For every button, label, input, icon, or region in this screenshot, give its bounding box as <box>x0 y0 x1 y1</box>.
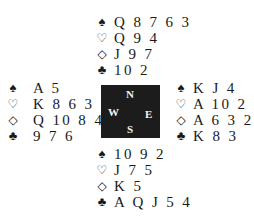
north-hearts-cards: Q 9 4 <box>114 30 159 46</box>
diamond-icon: ◇ <box>95 46 109 62</box>
spade-icon: ♠ <box>174 80 188 96</box>
north-clubs-cards: 10 2 <box>114 62 150 78</box>
spade-icon: ♠ <box>6 80 20 96</box>
club-icon: ♣ <box>6 128 20 144</box>
heart-icon: ♡ <box>6 96 20 112</box>
club-icon: ♣ <box>174 128 188 144</box>
diamond-icon: ◇ <box>95 178 109 194</box>
heart-icon: ♡ <box>95 30 109 46</box>
heart-icon: ♡ <box>95 162 109 178</box>
heart-icon: ♡ <box>174 96 188 112</box>
compass-south-label: S <box>127 124 133 135</box>
west-hearts-cards: K 8 6 3 <box>33 96 94 112</box>
compass-east-label: E <box>145 109 152 120</box>
spade-icon: ♠ <box>95 14 109 30</box>
south-diamonds-cards: K 5 <box>114 178 143 194</box>
diamond-icon: ◇ <box>174 112 188 128</box>
west-diamonds-cards: Q 10 8 4 <box>33 112 104 128</box>
east-diamonds-cards: A 6 3 2 <box>193 112 254 128</box>
east-spades-cards: K J 4 <box>193 80 237 96</box>
diamond-icon: ◇ <box>6 112 20 128</box>
compass-west-label: W <box>108 107 119 118</box>
south-spades-cards: 10 9 2 <box>114 146 166 162</box>
west-clubs-cards: 9 7 6 <box>33 128 75 144</box>
compass-north-label: N <box>126 89 134 100</box>
west-spades-cards: A 5 <box>33 80 61 96</box>
club-icon: ♣ <box>95 194 109 210</box>
south-hearts-cards: J 7 5 <box>114 162 154 178</box>
spade-icon: ♠ <box>95 146 109 162</box>
east-clubs-cards: K 8 3 <box>193 128 238 144</box>
north-spades-cards: Q 8 7 6 3 <box>114 14 191 30</box>
club-icon: ♣ <box>95 62 109 78</box>
east-hearts-cards: A 10 2 <box>193 96 247 112</box>
south-clubs-cards: A Q J 5 4 <box>114 194 192 210</box>
compass-box: N W E S <box>101 85 160 138</box>
north-diamonds-cards: J 9 7 <box>114 46 154 62</box>
